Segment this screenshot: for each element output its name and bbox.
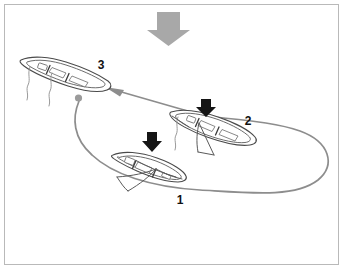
boat-position-2 <box>170 110 257 155</box>
person-in-water-marker <box>75 94 82 101</box>
sailing-maneuver-diagram: 3 2 <box>0 0 343 269</box>
boat-position-1 <box>111 152 186 191</box>
step-label-1: 1 <box>177 193 184 207</box>
step-label-2: 2 <box>245 114 252 128</box>
wind-direction-arrow <box>147 12 190 46</box>
step-label-3: 3 <box>98 58 105 72</box>
diagram-canvas: 3 2 <box>0 0 343 269</box>
boat-1-wind-arrow-icon <box>142 132 162 152</box>
